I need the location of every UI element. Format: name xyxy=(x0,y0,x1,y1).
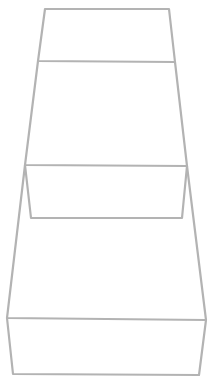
top-box xyxy=(38,9,175,62)
middle-box-edge xyxy=(25,61,187,166)
shape-layer xyxy=(7,9,206,375)
diagram-drawing xyxy=(0,0,212,381)
top-box-edge xyxy=(38,9,175,62)
middle-box xyxy=(25,61,187,218)
middle-box-edge xyxy=(25,165,187,218)
bottom-box xyxy=(7,165,206,375)
bottom-box-edge xyxy=(7,318,206,375)
stacked-boxes-diagram xyxy=(0,0,212,381)
bottom-box-edge xyxy=(7,165,206,320)
